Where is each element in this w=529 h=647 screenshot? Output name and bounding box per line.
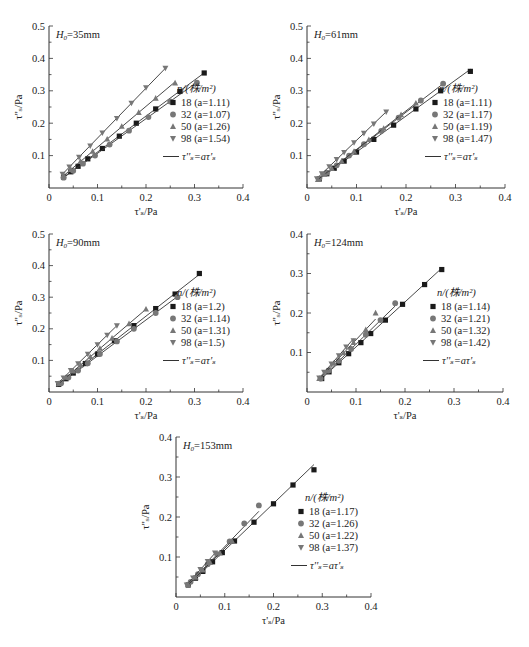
x-tick-label: 0 (46, 396, 51, 407)
series-n-98 (314, 109, 389, 181)
legend-marker (170, 327, 176, 333)
x-axis-title: τ'ₛ/Pa (393, 410, 416, 421)
y-tick-label: 0.1 (159, 552, 172, 563)
legend-entry: 32 (a=1.14) (181, 313, 231, 325)
y-axis-title: τ''ₛ/Pa (271, 300, 282, 325)
chart-panel-3: 00.10.20.30.40.10.20.30.40.5τ'ₛ/Paτ''ₛ/P… (13, 229, 250, 422)
data-point-marker (251, 520, 256, 525)
data-point-marker (256, 503, 262, 509)
x-tick-label: 0.3 (188, 192, 201, 203)
y-tick-label: 0.1 (290, 347, 303, 358)
y-tick-label: 0.2 (290, 118, 303, 129)
legend-title: n/(株/m²) (439, 83, 478, 95)
data-point-marker (143, 306, 149, 312)
legend-entry: 98 (a=1.47) (443, 133, 493, 145)
x-tick-label: 0.3 (316, 601, 329, 612)
panel-label: H0=90mm (55, 237, 100, 250)
chart-panel-1: 00.10.20.30.40.10.20.30.40.5τ'ₛ/Paτ''ₛ/P… (13, 21, 250, 218)
x-tick-label: 0.2 (139, 396, 152, 407)
x-tick-label: 0.2 (399, 192, 412, 203)
x-tick-label: 0.2 (398, 396, 411, 407)
data-point-marker (134, 121, 139, 126)
data-point-marker (363, 332, 369, 338)
y-tick-label: 0.5 (290, 21, 303, 32)
x-tick-label: 0.3 (449, 192, 462, 203)
legend-marker (432, 100, 437, 105)
panel-label: H0=124mm (313, 237, 363, 250)
y-tick-label: 0.1 (290, 150, 303, 161)
legend-entry: 98 (a=1.42) (441, 337, 491, 349)
y-tick-label: 0.1 (32, 355, 45, 366)
data-point-marker (97, 351, 103, 357)
y-tick-label: 0.4 (32, 53, 46, 64)
y-tick-label: 0.2 (290, 308, 303, 319)
legend-marker (432, 136, 438, 142)
x-tick-label: 0.4 (364, 601, 378, 612)
legend-title: n/(株/m²) (305, 492, 344, 504)
data-point-marker (468, 69, 473, 74)
legend-marker (170, 316, 176, 322)
series-n-50 (315, 100, 419, 182)
legend-entry: 98 (a=1.5) (181, 337, 225, 349)
y-axis-title: τ''ₛ/Pa (140, 504, 151, 529)
legend-title: n/(株/m²) (437, 287, 476, 299)
data-point-marker (373, 310, 379, 316)
legend-fit-label: τ''ₛ=aτ'ₛ (442, 355, 476, 366)
data-point-marker (119, 123, 125, 129)
legend-fit-label: τ''ₛ=aτ'ₛ (182, 355, 216, 366)
data-point-marker (422, 282, 427, 287)
series-n-18 (186, 465, 317, 588)
legend-marker (170, 112, 176, 118)
y-tick-label: 0.1 (32, 150, 45, 161)
legend-marker (298, 509, 303, 514)
data-point-marker (383, 318, 388, 323)
y-tick-label: 0.4 (290, 229, 304, 240)
y-tick-label: 0.2 (32, 118, 45, 129)
y-tick-label: 0.3 (290, 268, 303, 279)
x-axis-title: τ'ₛ/Pa (134, 410, 157, 421)
data-point-marker (290, 482, 295, 487)
data-point-marker (378, 317, 384, 323)
panel-label: H0=153mm (182, 440, 232, 453)
x-tick-label: 0.2 (267, 601, 280, 612)
legend: n/(株/m²)18 (a=1.14)32 (a=1.21)50 (a=1.32… (423, 287, 491, 366)
x-tick-label: 0.1 (91, 396, 104, 407)
legend: n/(株/m²)18 (a=1.2)32 (a=1.14)50 (a=1.31)… (163, 287, 231, 366)
legend-entry: 18 (a=1.11) (181, 97, 230, 109)
legend-marker (298, 532, 304, 538)
series-n-50 (56, 306, 149, 386)
y-tick-label: 0.2 (32, 323, 45, 334)
series-n-18 (319, 267, 444, 381)
legend-entry: 32 (a=1.21) (441, 313, 491, 325)
data-point-marker (146, 114, 152, 120)
x-axis-title: τ'ₛ/Pa (394, 206, 417, 217)
x-tick-label: 0.3 (447, 396, 460, 407)
legend-entry: 18 (a=1.14) (441, 301, 491, 313)
series-n-32 (58, 294, 180, 386)
legend-title: n/(株/m²) (177, 287, 216, 299)
y-tick-label: 0.2 (159, 512, 172, 523)
legend-marker (170, 123, 176, 129)
series-n-32 (318, 300, 398, 381)
panel-label: H0=61mm (313, 29, 358, 42)
legend-marker (430, 316, 436, 322)
data-point-marker (107, 142, 113, 148)
legend-entry: 18 (a=1.17) (309, 506, 359, 518)
data-point-marker (241, 521, 247, 527)
legend-entry: 18 (a=1.11) (443, 97, 492, 109)
data-point-marker (126, 128, 132, 134)
y-tick-label: 0.4 (290, 53, 304, 64)
data-point-marker (114, 339, 120, 345)
figure-canvas: 00.10.20.30.40.10.20.30.40.5τ'ₛ/Paτ''ₛ/P… (0, 0, 529, 647)
legend-marker (170, 136, 176, 142)
series-n-50 (61, 80, 179, 178)
legend-entry: 98 (a=1.37) (309, 542, 359, 554)
y-tick-label: 0.4 (32, 260, 46, 271)
legend-fit-label: τ''ₛ=aτ'ₛ (182, 151, 216, 162)
y-tick-label: 0.3 (32, 85, 45, 96)
data-point-marker (271, 501, 276, 506)
x-tick-label: 0.1 (350, 192, 363, 203)
legend-entry: 50 (a=1.19) (443, 121, 493, 133)
x-axis-title: τ'ₛ/Pa (262, 615, 285, 626)
legend-entry: 32 (a=1.26) (309, 518, 359, 530)
